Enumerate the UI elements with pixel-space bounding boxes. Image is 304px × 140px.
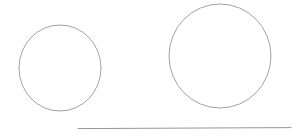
baseline-shape [78, 128, 291, 129]
sketch-drawing [0, 0, 304, 140]
erased-annotation-mark [177, 110, 193, 118]
large-circle-shape [169, 4, 271, 108]
sketch-canvas [0, 0, 304, 140]
small-circle-shape [19, 25, 101, 111]
